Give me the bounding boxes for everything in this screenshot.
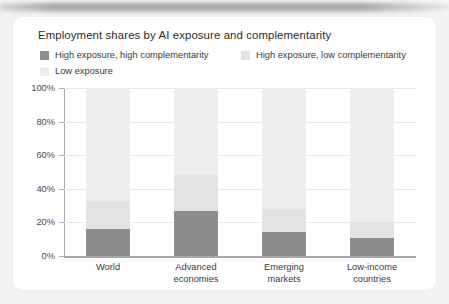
chart-title: Employment shares by AI exposure and com… [38, 29, 331, 41]
legend-item-high-exposure-high-complementarity: High exposure, high complementarity [40, 50, 208, 60]
x-axis-category-label-line: Low-income [317, 262, 427, 274]
bar-group[interactable]: Advancedeconomies [174, 88, 218, 256]
y-axis-tick-label: 60% [36, 150, 55, 160]
bar-segment[interactable] [262, 232, 306, 256]
legend-swatch-icon-0 [40, 51, 49, 60]
y-axis-tick-label: 100% [31, 83, 55, 93]
bar-segment[interactable] [174, 88, 218, 175]
plot-area: 0%20%40%60%80%100% WorldAdvancedeconomie… [64, 88, 416, 256]
legend-swatch-icon-2 [40, 67, 49, 76]
y-axis-line [64, 88, 65, 257]
bar-group[interactable]: World [86, 88, 130, 256]
y-axis-tick [59, 155, 64, 156]
x-axis-category-label: Low-incomecountries [317, 262, 427, 285]
stacked-bar[interactable] [262, 88, 306, 256]
bar-segment[interactable] [86, 201, 130, 230]
legend-swatch-icon-1 [241, 51, 250, 60]
y-axis-tick [59, 122, 64, 123]
bar-group[interactable]: Low-incomecountries [350, 88, 394, 256]
y-axis-tick-label: 80% [36, 117, 55, 127]
y-axis-tick [59, 256, 64, 257]
stacked-bar[interactable] [174, 88, 218, 256]
chart-card: Employment shares by AI exposure and com… [13, 17, 436, 290]
x-axis-line [64, 256, 416, 258]
legend-item-low-exposure: Low exposure [40, 66, 113, 76]
bar-segment[interactable] [262, 88, 306, 209]
y-axis-tick-label: 20% [36, 217, 55, 227]
bar-segment[interactable] [174, 211, 218, 256]
bar-segment[interactable] [86, 88, 130, 201]
bar-segment[interactable] [262, 209, 306, 233]
x-axis-category-label-line: countries [317, 274, 427, 286]
bar-group[interactable]: Emergingmarkets [262, 88, 306, 256]
legend-label-0: High exposure, high complementarity [55, 50, 208, 60]
bar-segment[interactable] [350, 222, 394, 237]
bar-segment[interactable] [86, 229, 130, 256]
stacked-bar[interactable] [86, 88, 130, 256]
legend-item-high-exposure-low-complementarity: High exposure, low complementarity [241, 50, 406, 60]
bar-segment[interactable] [350, 238, 394, 256]
stacked-bar[interactable] [350, 88, 394, 256]
y-axis-tick [59, 189, 64, 190]
blurred-header-strip [0, 0, 449, 14]
y-axis-tick-label: 40% [36, 184, 55, 194]
bar-segment[interactable] [350, 88, 394, 222]
y-axis-tick [59, 88, 64, 89]
y-axis-tick-label: 0% [42, 251, 55, 261]
legend-label-1: High exposure, low complementarity [256, 50, 406, 60]
bar-segment[interactable] [174, 175, 218, 210]
y-axis-tick [59, 222, 64, 223]
legend-label-2: Low exposure [55, 66, 113, 76]
